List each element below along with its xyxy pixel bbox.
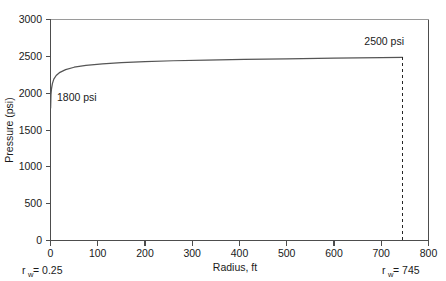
wellbore-radius-note-value: = 0.25 [33,264,63,276]
x-tick-label-700: 700 [372,247,390,259]
y-tick-label-2000: 2000 [19,87,43,99]
x-tick-label-400: 400 [231,247,249,259]
x-tick-label-500: 500 [278,247,296,259]
axis-frame [51,20,429,241]
drainage-radius-note-value: = 745 [393,264,420,276]
x-tick-label-200: 200 [136,247,154,259]
x-axis-ticks [51,241,429,246]
x-tick-label-0: 0 [48,247,54,259]
x-tick-label-300: 300 [183,247,201,259]
wellbore-radius-note: r w = 0.25 [22,264,63,279]
y-axis-tick-labels: 0 500 1000 1500 2000 2500 3000 [19,13,43,246]
y-tick-label-3000: 3000 [19,13,43,25]
drainage-radius-note: r w = 745 [382,264,420,279]
x-axis-tick-labels: 0 100 200 300 400 500 600 700 800 [48,247,438,259]
end-pressure-label: 2500 psi [364,35,404,47]
x-tick-label-600: 600 [325,247,343,259]
y-tick-label-1000: 1000 [19,160,43,172]
y-axis-ticks [46,20,51,241]
chart-svg: 0 500 1000 1500 2000 2500 3000 0 100 200… [0,0,446,281]
y-axis-title: Pressure (psi) [3,97,15,162]
wellbore-radius-note-prefix: r [22,264,26,276]
pressure-curve [51,57,403,107]
x-tick-label-100: 100 [89,247,107,259]
chart-figure: 0 500 1000 1500 2000 2500 3000 0 100 200… [0,0,446,281]
y-tick-label-0: 0 [36,234,42,246]
y-tick-label-1500: 1500 [19,124,43,136]
x-tick-label-800: 800 [420,247,438,259]
y-tick-label-2500: 2500 [19,50,43,62]
x-axis-title: Radius, ft [213,261,257,273]
drainage-radius-note-prefix: r [382,264,386,276]
y-tick-label-500: 500 [24,197,42,209]
start-pressure-label: 1800 psi [57,91,97,103]
